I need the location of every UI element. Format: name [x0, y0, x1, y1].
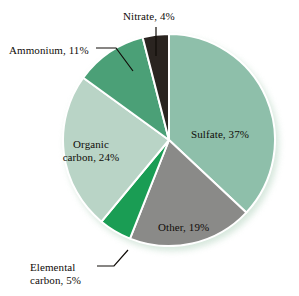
slice-label-other: Other, 19%: [158, 221, 209, 234]
pie-chart-figure: Nitrate, 4% Ammonium, 11% Organic carbon…: [0, 0, 299, 296]
slice-label-organic-carbon-line2: carbon, 24%: [63, 151, 120, 163]
slice-label-nitrate: Nitrate, 4%: [123, 10, 175, 23]
leader-line-elemental-carbon: [97, 250, 128, 266]
slice-label-elemental-carbon-line2: carbon, 5%: [30, 274, 81, 286]
slice-label-organic-carbon: Organic carbon, 24%: [60, 138, 122, 163]
slice-label-ammonium: Ammonium, 11%: [9, 44, 89, 57]
slice-label-elemental-carbon: Elemental carbon, 5%: [30, 261, 100, 286]
slice-label-elemental-carbon-line1: Elemental: [30, 261, 76, 273]
slice-label-sulfate: Sulfate, 37%: [191, 128, 249, 141]
slice-label-organic-carbon-line1: Organic: [73, 138, 109, 150]
